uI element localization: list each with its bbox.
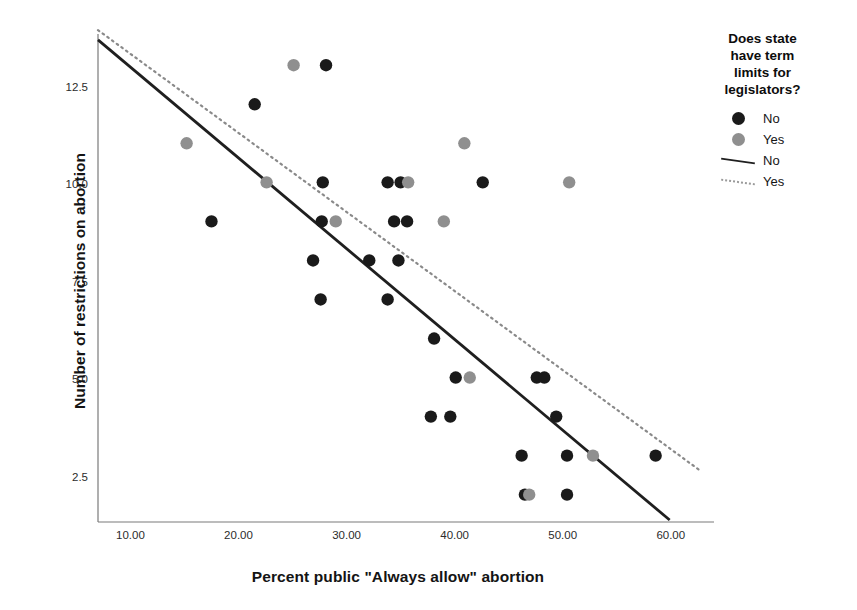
legend-line-dotted-icon — [721, 178, 755, 185]
data-point-no — [316, 215, 328, 227]
legend-label: No — [758, 111, 780, 126]
data-point-no — [363, 254, 375, 266]
legend-line-key — [718, 181, 758, 183]
legend-line-key — [718, 160, 758, 162]
data-point-no — [428, 332, 440, 344]
legend-label: Yes — [758, 132, 784, 147]
legend-row-marker-yes[interactable]: Yes — [718, 129, 850, 150]
regression-lines — [98, 30, 701, 520]
x-tick-label: 30.00 — [317, 529, 377, 541]
axis-frame — [98, 34, 714, 522]
scatter-plot-figure: 10.0020.0030.0040.0050.0060.00 2.55.07.5… — [0, 0, 857, 610]
regression-line-yes — [98, 30, 701, 471]
data-point-no — [381, 293, 393, 305]
data-point-yes — [180, 137, 192, 149]
data-point-yes — [287, 59, 299, 71]
data-point-yes — [330, 215, 342, 227]
data-point-yes — [464, 371, 476, 383]
regression-line-no — [98, 40, 670, 520]
x-tick-label: 40.00 — [425, 529, 485, 541]
legend-title-line: limits for — [690, 64, 835, 81]
data-point-no — [388, 215, 400, 227]
x-tick-label: 50.00 — [533, 529, 593, 541]
data-point-no — [401, 215, 413, 227]
data-point-no — [649, 449, 661, 461]
data-point-no — [392, 254, 404, 266]
data-point-no — [515, 449, 527, 461]
data-point-no — [307, 254, 319, 266]
y-axis-title: Number of restrictions on abortion — [71, 46, 89, 516]
legend-label: Yes — [758, 174, 784, 189]
data-point-no — [314, 293, 326, 305]
x-tick-label: 60.00 — [641, 529, 701, 541]
legend-label: No — [758, 153, 780, 168]
legend-marker-key — [718, 133, 758, 146]
data-point-no — [450, 371, 462, 383]
x-axis-title: Percent public "Always allow" abortion — [98, 568, 698, 586]
data-point-yes — [563, 176, 575, 188]
data-point-no — [561, 449, 573, 461]
legend-row-line-yes[interactable]: Yes — [718, 171, 850, 192]
data-point-no — [381, 176, 393, 188]
data-point-no — [425, 410, 437, 422]
data-point-no — [561, 488, 573, 500]
legend-row-line-no[interactable]: No — [718, 150, 850, 171]
legend-title-line: Does state — [690, 30, 835, 47]
legend-title: Does statehave termlimits forlegislators… — [690, 30, 835, 98]
legend-line-solid-icon — [721, 157, 755, 164]
legend-marker-icon — [732, 133, 745, 146]
data-point-yes — [438, 215, 450, 227]
data-point-yes — [402, 176, 414, 188]
x-tick-label: 10.00 — [100, 529, 160, 541]
data-point-yes — [458, 137, 470, 149]
data-point-no — [477, 176, 489, 188]
data-point-yes — [523, 488, 535, 500]
data-point-no — [538, 371, 550, 383]
data-point-yes — [260, 176, 272, 188]
legend-title-line: have term — [690, 47, 835, 64]
legend-marker-icon — [732, 112, 745, 125]
data-point-no — [249, 98, 261, 110]
data-point-no — [550, 410, 562, 422]
legend-marker-key — [718, 112, 758, 125]
legend-entries: NoYesNoYes — [690, 108, 850, 192]
data-point-no — [317, 176, 329, 188]
data-point-no — [444, 410, 456, 422]
legend-row-marker-no[interactable]: No — [718, 108, 850, 129]
legend: Does statehave termlimits forlegislators… — [690, 30, 850, 192]
data-point-no — [205, 215, 217, 227]
data-points — [180, 59, 661, 501]
data-point-yes — [587, 449, 599, 461]
legend-title-line: legislators? — [690, 81, 835, 98]
data-point-no — [320, 59, 332, 71]
x-tick-label: 20.00 — [208, 529, 268, 541]
